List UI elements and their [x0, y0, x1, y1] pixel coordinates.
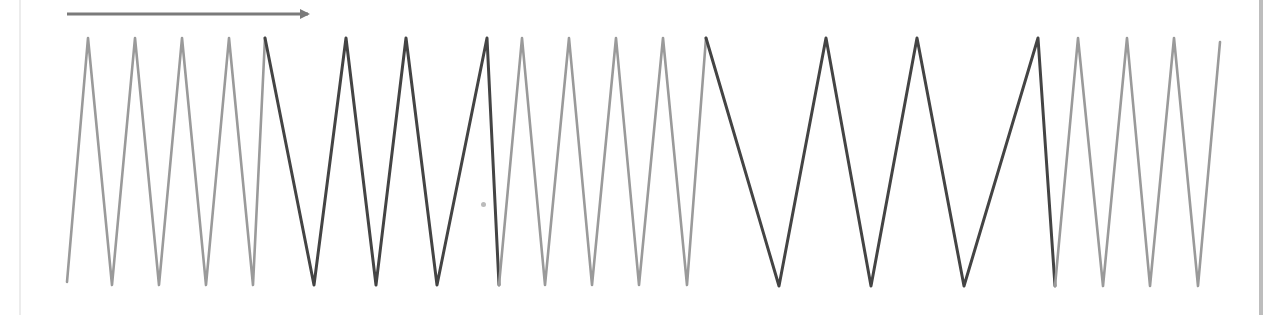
waveform-segment-dark: [265, 38, 499, 285]
scan-speck: [481, 202, 486, 207]
waveform-segment-light: [67, 38, 265, 285]
waveform-segment-dark: [706, 38, 1055, 286]
waveform-segment-light: [499, 38, 706, 285]
waveform-segment-light: [1055, 38, 1220, 286]
waveform-segments: [67, 38, 1220, 286]
zigzag-diagram: [0, 0, 1287, 315]
